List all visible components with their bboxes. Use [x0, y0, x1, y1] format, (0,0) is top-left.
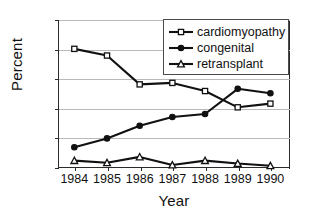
open-triangle-marker — [71, 157, 78, 163]
x-tick-label: 1990 — [250, 172, 290, 186]
open-triangle-marker — [104, 159, 111, 165]
open-triangle-marker — [234, 160, 241, 166]
legend-label: congenital — [195, 42, 254, 55]
filled-circle-marker — [72, 145, 77, 150]
filled-circle-marker — [137, 123, 142, 128]
legend-item-retransplant: retransplant — [167, 56, 288, 72]
open-square-marker — [170, 80, 175, 85]
open-square-marker — [178, 29, 183, 34]
legend-item-cardiomyopathy: cardiomyopathy — [167, 24, 288, 40]
open-triangle-marker — [267, 162, 274, 168]
open-triangle-marker — [169, 162, 176, 168]
open-square-marker — [202, 88, 207, 93]
open-square-marker — [137, 82, 142, 87]
x-axis-title: Year — [58, 192, 290, 209]
legend-label: retransplant — [195, 58, 263, 71]
legend-symbol-open-square — [167, 25, 195, 39]
y-axis-title: Percent — [8, 25, 25, 105]
open-triangle-marker — [136, 154, 143, 160]
open-triangle-marker — [202, 157, 209, 163]
series-retransplant — [71, 154, 274, 169]
open-square-marker — [104, 53, 109, 58]
y-tick-mark — [55, 168, 59, 169]
open-triangle-marker — [178, 61, 185, 67]
legend-item-congenital: congenital — [167, 40, 288, 56]
open-square-marker — [268, 101, 273, 106]
legend-label: cardiomyopathy — [195, 26, 285, 39]
legend-symbol-filled-circle — [167, 41, 195, 55]
open-square-marker — [235, 105, 240, 110]
legend-box: cardiomyopathycongenitalretransplant — [163, 19, 289, 75]
series-congenital — [72, 86, 273, 150]
filled-circle-marker — [170, 114, 175, 119]
line-chart-figure: Percent Year 020406080100 19841985198619… — [0, 0, 309, 214]
filled-circle-marker — [268, 91, 273, 96]
filled-circle-marker — [202, 111, 207, 116]
filled-circle-marker — [235, 86, 240, 91]
filled-circle-marker — [104, 136, 109, 141]
filled-circle-marker — [178, 45, 183, 50]
open-square-marker — [72, 46, 77, 51]
legend-symbol-open-triangle — [167, 57, 195, 71]
